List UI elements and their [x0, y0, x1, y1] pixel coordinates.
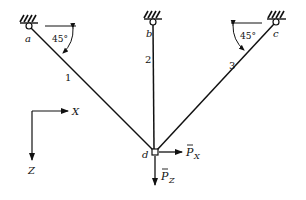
joint-d-icon — [152, 149, 158, 155]
z-axis-label: Z — [27, 165, 36, 176]
svg-text:P: P — [185, 146, 194, 159]
support-b — [144, 11, 162, 25]
svg-text:P: P — [160, 170, 169, 183]
member-label-1: 1 — [65, 72, 71, 83]
load-pz-label: P Z — [160, 169, 175, 185]
load-px-label: P X — [185, 145, 200, 161]
svg-text:X: X — [193, 152, 200, 161]
x-axis-label: X — [71, 106, 80, 117]
member-3 — [157, 24, 274, 150]
member-label-3: 3 — [229, 60, 235, 71]
angle-label-a: 45° — [52, 34, 68, 44]
support-a — [20, 15, 38, 29]
label-b: b — [146, 28, 152, 39]
label-a: a — [25, 33, 31, 44]
pin-b-icon — [150, 19, 156, 25]
angle-label-c: 45° — [240, 31, 256, 41]
label-c: c — [273, 28, 279, 39]
support-c — [267, 11, 286, 25]
member-2 — [153, 25, 154, 149]
member-label-2: 2 — [145, 54, 151, 65]
label-d: d — [142, 149, 148, 160]
member-1 — [31, 28, 153, 150]
truss-diagram: a b c d 1 2 3 45° 45° P X P Z X Z — [0, 0, 306, 200]
svg-text:Z: Z — [168, 176, 175, 185]
